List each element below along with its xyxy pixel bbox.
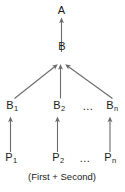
node-b: B — [58, 41, 65, 52]
node-pn-label: P — [104, 151, 111, 163]
node-p1-subscript: 1 — [13, 156, 17, 165]
node-b1-label: B — [6, 99, 13, 111]
node-a: A — [58, 5, 65, 16]
node-pn-subscript: n — [112, 156, 116, 165]
edge-bn-to-mid — [68, 66, 113, 99]
diagram-caption: (First + Second) — [28, 172, 96, 182]
edge-b1-to-mid — [15, 66, 56, 99]
node-b1-subscript: 1 — [14, 104, 18, 113]
node-bn-subscript: n — [114, 104, 118, 113]
node-b1: B1 — [6, 100, 18, 112]
ellipsis-b-row: … — [82, 101, 94, 112]
node-p1-label: P — [5, 151, 12, 163]
diagram-canvas: A B B1 B2 … Bn P1 P2 … Pn (First + Secon… — [0, 0, 125, 192]
node-b-label: B — [58, 40, 65, 52]
node-pn: Pn — [104, 152, 116, 164]
node-bn: Bn — [106, 100, 118, 112]
node-p2-label: P — [52, 151, 59, 163]
node-bn-label: B — [106, 99, 113, 111]
node-p2: P2 — [52, 152, 64, 164]
node-p1: P1 — [5, 152, 17, 164]
node-b2-label: B — [53, 99, 60, 111]
ellipsis-p-row: … — [79, 153, 91, 164]
node-a-label: A — [58, 4, 65, 16]
node-p2-subscript: 2 — [60, 156, 64, 165]
node-b2: B2 — [53, 100, 65, 112]
node-b2-subscript: 2 — [61, 104, 65, 113]
